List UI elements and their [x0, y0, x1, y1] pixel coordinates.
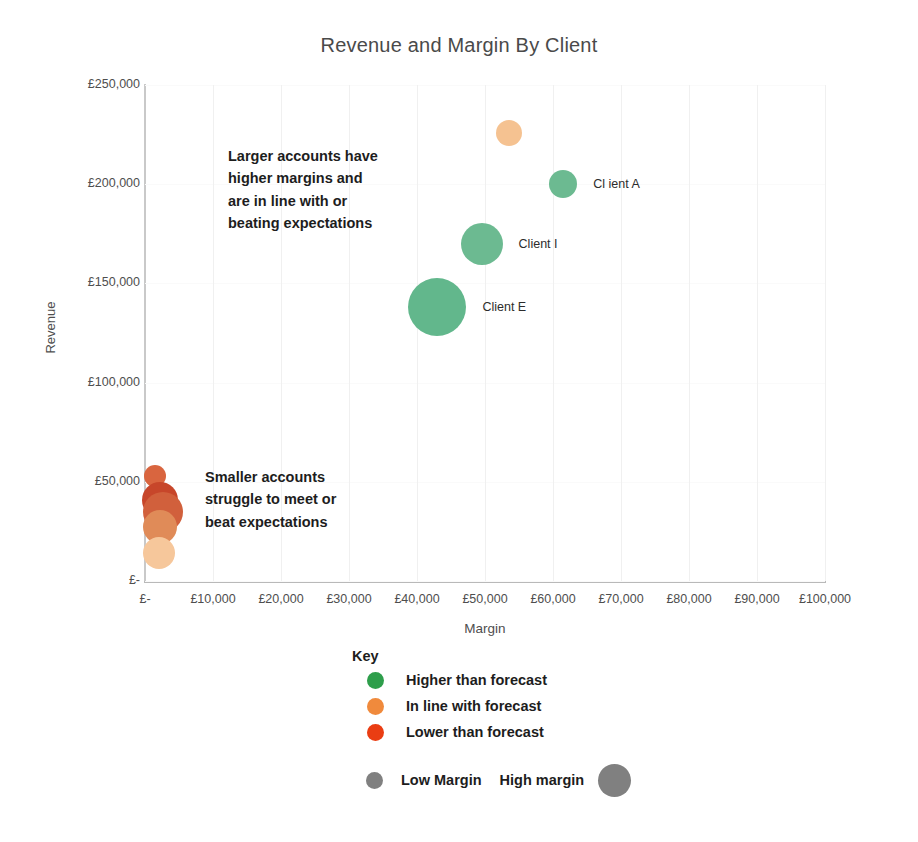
legend-item[interactable]: In line with forecast — [352, 693, 682, 719]
x-axis-tick-label: £60,000 — [530, 592, 575, 606]
data-point-label: Cl ient A — [593, 177, 640, 191]
horizontal-gridline — [145, 581, 825, 582]
size-legend-high-label: High margin — [500, 772, 585, 788]
data-point-label: Client I — [519, 237, 558, 251]
size-legend-small-circle-icon — [366, 772, 383, 789]
data-point-bubble[interactable] — [143, 537, 175, 569]
size-legend-large-circle-icon — [598, 764, 631, 797]
annotation-line: are in line with or — [228, 190, 378, 212]
x-axis-tick-label: £10,000 — [190, 592, 235, 606]
size-legend: Low Margin High margin — [352, 758, 672, 802]
vertical-gridline — [689, 85, 690, 581]
data-point-bubble[interactable] — [496, 120, 522, 146]
x-axis-tick-labels: £-£10,000£20,000£30,000£40,000£50,000£60… — [145, 592, 825, 612]
y-axis-tick-label: £100,000 — [54, 375, 140, 389]
x-axis-tick-label: £40,000 — [394, 592, 439, 606]
legend-item[interactable]: Lower than forecast — [352, 719, 682, 745]
data-point-label: Client E — [482, 300, 526, 314]
legend-category-list: Higher than forecastIn line with forecas… — [352, 667, 682, 745]
legend-item-label: Higher than forecast — [406, 672, 547, 688]
y-axis-tick-label: £250,000 — [54, 77, 140, 91]
data-point-bubble[interactable] — [408, 278, 466, 336]
vertical-gridline — [485, 85, 486, 581]
annotation-line: Smaller accounts — [205, 466, 336, 488]
x-axis-tick-label: £50,000 — [462, 592, 507, 606]
legend-item-label: In line with forecast — [406, 698, 541, 714]
annotation-line: struggle to meet or — [205, 488, 336, 510]
x-axis-title: Margin — [145, 621, 825, 636]
annotation-line: higher margins and — [228, 167, 378, 189]
annotation-line: beating expectations — [228, 212, 378, 234]
data-point-bubble[interactable] — [461, 223, 503, 265]
y-axis-tick-label: £150,000 — [54, 275, 140, 289]
vertical-gridline — [757, 85, 758, 581]
legend-color-circle-icon — [367, 698, 384, 715]
y-axis-tick-label: £50,000 — [54, 474, 140, 488]
y-axis-tick-label: £200,000 — [54, 176, 140, 190]
x-axis-tick-label: £80,000 — [666, 592, 711, 606]
y-axis-tick-labels: £-£50,000£100,000£150,000£200,000£250,00… — [45, 85, 140, 581]
chart-canvas: Revenue and Margin By Client Cl ient ACl… — [0, 0, 918, 842]
chart-title: Revenue and Margin By Client — [0, 34, 918, 57]
legend-item[interactable]: Higher than forecast — [352, 667, 682, 693]
legend-title: Key — [352, 648, 682, 664]
size-legend-low-label: Low Margin — [401, 772, 482, 788]
vertical-gridline — [621, 85, 622, 581]
legend-color-circle-icon — [367, 672, 384, 689]
x-axis-tick-label: £70,000 — [598, 592, 643, 606]
x-axis-tick-label: £20,000 — [258, 592, 303, 606]
vertical-gridline — [825, 85, 826, 581]
chart-annotation: Larger accounts havehigher margins andar… — [228, 145, 378, 235]
chart-legend: Key Higher than forecastIn line with for… — [352, 648, 682, 745]
x-axis-tick-label: £90,000 — [734, 592, 779, 606]
x-axis-tick-label: £- — [139, 592, 150, 606]
x-axis-tick-label: £30,000 — [326, 592, 371, 606]
vertical-gridline — [553, 85, 554, 581]
annotation-line: beat expectations — [205, 511, 336, 533]
x-axis-tick-label: £100,000 — [799, 592, 851, 606]
legend-item-label: Lower than forecast — [406, 724, 544, 740]
y-axis-tick-label: £- — [54, 573, 140, 587]
chart-annotation: Smaller accountsstruggle to meet orbeat … — [205, 466, 336, 533]
legend-color-circle-icon — [367, 724, 384, 741]
annotation-line: Larger accounts have — [228, 145, 378, 167]
data-point-bubble[interactable] — [549, 170, 577, 198]
vertical-gridline — [417, 85, 418, 581]
y-axis-title: Revenue — [43, 268, 58, 388]
